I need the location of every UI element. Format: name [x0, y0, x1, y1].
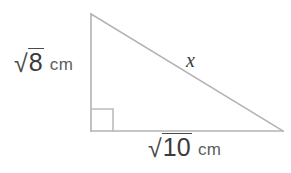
radicand-value: 8 [28, 48, 44, 76]
triangle-drawing [0, 0, 291, 173]
vertical-leg-label: √8cm [14, 48, 73, 76]
unit-label: cm [198, 141, 221, 158]
radical-sign-icon: √ [14, 51, 28, 76]
hypotenuse-label: x [186, 50, 195, 70]
radical-expression-sqrt8: √8 [14, 48, 44, 76]
radical-sign-icon: √ [148, 136, 162, 161]
triangle-hypotenuse [91, 14, 283, 131]
triangle-figure: √8cm √10cm x [0, 0, 291, 173]
right-angle-marker-icon [91, 109, 113, 131]
unit-label: cm [50, 56, 73, 73]
radicand-value: 10 [162, 133, 192, 161]
horizontal-leg-label: √10cm [148, 133, 221, 161]
radical-expression-sqrt10: √10 [148, 133, 192, 161]
